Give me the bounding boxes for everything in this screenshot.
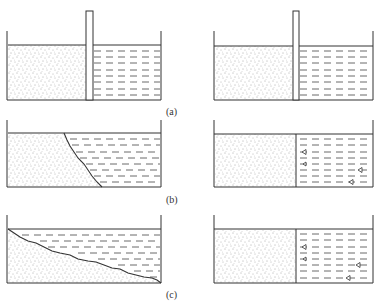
soil-region <box>215 46 293 100</box>
water-dashes <box>94 51 160 95</box>
water-dashes <box>300 139 372 182</box>
panel-b-left <box>7 120 161 187</box>
soil-water-diagram: (a) <box>0 0 380 305</box>
flow-markers <box>302 245 360 281</box>
flow-marker-icon <box>302 245 306 250</box>
panel-label-c: (c) <box>166 289 177 301</box>
retaining-wall <box>86 11 93 100</box>
flow-marker-icon <box>302 150 306 155</box>
soil-region <box>8 45 86 100</box>
flow-marker-icon <box>349 180 353 185</box>
panel-label-b: (b) <box>166 194 178 206</box>
water-dashes <box>300 51 372 95</box>
panel-label-a: (a) <box>166 106 177 118</box>
flow-marker-icon <box>358 168 362 173</box>
soil-region <box>215 230 296 283</box>
water-dashes <box>300 234 372 278</box>
panel-a-left <box>7 11 161 100</box>
soil-region <box>8 134 102 186</box>
flow-markers <box>302 150 362 185</box>
panel-a-right <box>214 11 373 100</box>
flow-marker-icon <box>303 257 306 261</box>
soil-region <box>215 134 296 187</box>
panel-b-right <box>214 120 373 187</box>
flow-marker-icon <box>303 162 306 166</box>
panel-c-left <box>7 215 161 283</box>
retaining-wall <box>293 11 299 100</box>
flow-marker-icon <box>356 263 360 268</box>
panel-c-right <box>214 215 373 283</box>
flow-marker-icon <box>346 276 350 281</box>
